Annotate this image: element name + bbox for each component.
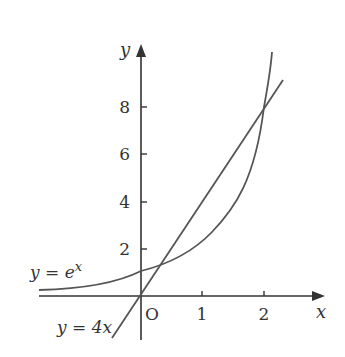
- line-label: y = 4x: [56, 317, 112, 337]
- graph: 1 2 O 2 4 6 8 x y y = ex y = 4x: [0, 0, 345, 357]
- y-tick-label-2: 2: [119, 239, 130, 259]
- y-axis-label: y: [119, 39, 131, 60]
- y-tick-label-8: 8: [119, 97, 130, 117]
- y-tick-label-6: 6: [119, 144, 130, 164]
- x-tick-label-2: 2: [259, 304, 270, 324]
- origin-label: O: [145, 304, 159, 324]
- line-y-4x: [112, 80, 283, 338]
- y-tick-label-4: 4: [119, 192, 130, 212]
- x-tick-label-1: 1: [197, 304, 208, 324]
- x-axis-label: x: [316, 301, 326, 322]
- exp-label: y = ex: [29, 259, 83, 282]
- y-axis-arrow-icon: [136, 44, 146, 57]
- x-axis-arrow-icon: [312, 291, 325, 301]
- curve-exp: [39, 52, 272, 290]
